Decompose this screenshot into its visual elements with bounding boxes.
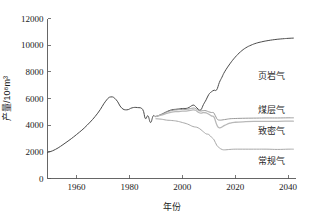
y-tick-label: 4000 — [26, 120, 45, 130]
chart-container: 020004000600080001000012000 196019802000… — [0, 0, 311, 215]
y-tick-label: 8000 — [26, 67, 45, 77]
x-tick-label: 2040 — [279, 182, 298, 192]
x-axis-title: 年份 — [163, 201, 181, 212]
x-tick-label: 1980 — [120, 182, 139, 192]
x-tick-label: 2020 — [226, 182, 245, 192]
series-label: 煤层气 — [258, 104, 285, 115]
x-tick-label: 2000 — [173, 182, 192, 192]
y-tick-label: 6000 — [26, 94, 45, 104]
series-label: 常规气 — [258, 155, 285, 166]
y-tick-label: 10000 — [21, 40, 44, 50]
series-line — [48, 38, 294, 152]
line-chart: 020004000600080001000012000 196019802000… — [0, 0, 311, 215]
y-tick-label: 12000 — [21, 14, 44, 24]
x-tick-label: 1960 — [68, 182, 87, 192]
x-axis-ticks: 19601980200020202040 — [68, 175, 298, 191]
y-axis-ticks: 020004000600080001000012000 — [21, 14, 51, 184]
y-tick-label: 2000 — [26, 147, 45, 157]
y-tick-label: 0 — [39, 174, 44, 184]
series-label: 页岩气 — [258, 70, 285, 81]
y-axis-title: 产量/10⁸m³ — [1, 76, 12, 121]
series-label: 致密气 — [258, 125, 285, 136]
series-lines — [48, 38, 294, 152]
